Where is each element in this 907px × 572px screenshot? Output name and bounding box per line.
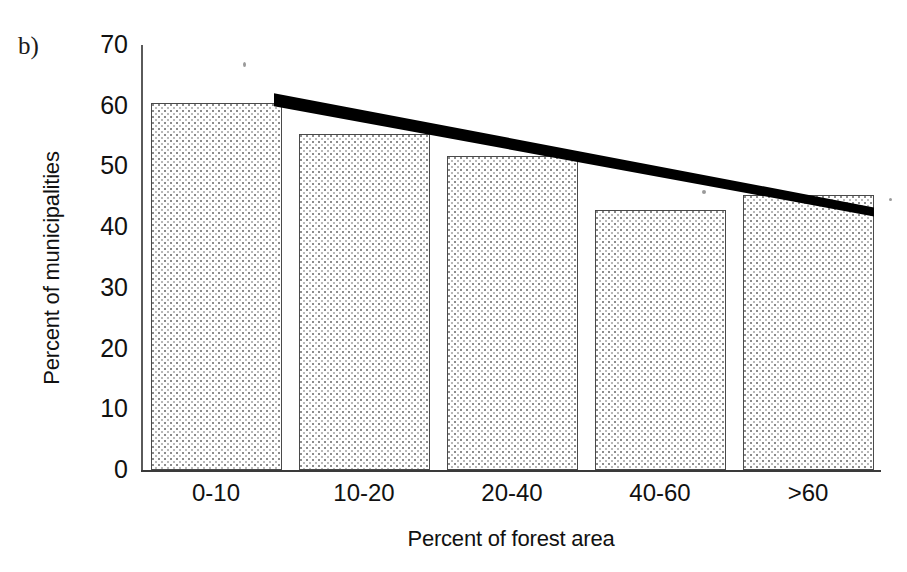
scan-speck — [889, 198, 892, 201]
x-tick-label: 20-40 — [442, 481, 582, 505]
x-tick-label: >60 — [738, 481, 878, 505]
scan-speck — [702, 190, 706, 194]
plot-area — [141, 45, 881, 470]
scan-speck — [243, 62, 246, 67]
x-tick-label: 40-60 — [590, 481, 730, 505]
bar — [151, 103, 282, 470]
x-axis-line — [141, 470, 881, 472]
bar — [595, 210, 726, 470]
bar — [743, 195, 874, 470]
x-tick-label: 10-20 — [294, 481, 434, 505]
bar — [299, 134, 430, 470]
x-tick-label: 0-10 — [146, 481, 286, 505]
figure-panel-b: b) Percent of municipalities Percent of … — [0, 0, 907, 572]
bar — [447, 156, 578, 471]
